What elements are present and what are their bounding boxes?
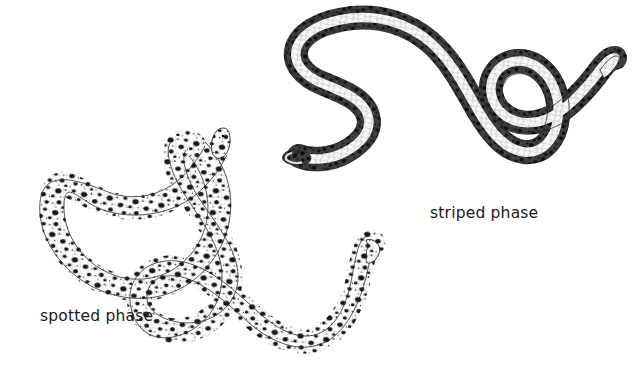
striped-phase-snake bbox=[283, 9, 620, 171]
striped-snake-head bbox=[283, 150, 312, 165]
striped-phase-label: striped phase bbox=[430, 206, 538, 222]
snake-phases-figure: spotted phase striped phase bbox=[0, 0, 644, 369]
spotted-phase-label: spotted phase bbox=[40, 309, 153, 325]
